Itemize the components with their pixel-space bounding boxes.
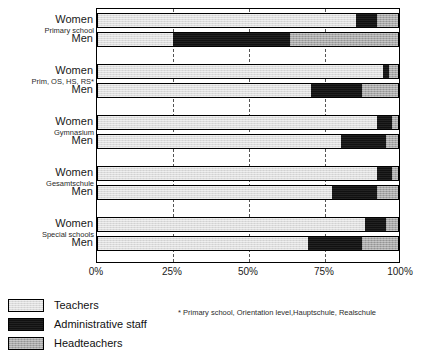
bar-segment-admin <box>311 84 362 97</box>
x-tick-50pct: 50% <box>228 266 268 277</box>
bar-segment-teachers <box>98 186 332 199</box>
bar-segment-head <box>377 186 398 199</box>
y-group-label-special-schools: Special schools <box>2 231 94 239</box>
x-tick-100pct: 100% <box>380 266 420 277</box>
bar-segment-head <box>362 237 398 250</box>
bar-segment-head <box>386 135 398 148</box>
bar-segment-teachers <box>98 167 377 180</box>
bar-primary-school-men <box>97 32 399 47</box>
bar-segment-teachers <box>98 33 173 46</box>
legend-label-head: Headteachers <box>54 337 123 349</box>
y-label-women: Women <box>3 14 93 25</box>
x-tick-25pct: 25% <box>152 266 192 277</box>
bar-segment-head <box>362 84 398 97</box>
bar-gesamtschule-men <box>97 185 399 200</box>
bar-segment-admin <box>377 167 392 180</box>
bar-special-schools-men <box>97 236 399 251</box>
bar-gesamtschule-women <box>97 166 399 181</box>
bar-segment-admin <box>377 116 392 129</box>
bar-segment-admin <box>308 237 362 250</box>
y-label-women: Women <box>3 218 93 229</box>
bar-segment-head <box>392 116 398 129</box>
y-group-label-primary-school: Primary school <box>2 27 94 35</box>
bar-special-schools-women <box>97 217 399 232</box>
y-label-women: Women <box>3 65 93 76</box>
bar-segment-teachers <box>98 14 356 27</box>
bar-primary-school-women <box>97 13 399 28</box>
bar-gymnasium-women <box>97 115 399 130</box>
bar-gymnasium-men <box>97 134 399 149</box>
bar-segment-admin <box>365 218 386 231</box>
chart-legend: TeachersAdministrative staffHeadteachers <box>8 296 168 353</box>
x-tick-0pct: 0% <box>76 266 116 277</box>
chart-plot-area <box>96 8 400 263</box>
bar-segment-head <box>389 65 398 78</box>
y-group-label-gesamtschule: Gesamtschule <box>2 180 94 188</box>
legend-swatch-head <box>8 337 44 350</box>
bar-segment-admin <box>332 186 377 199</box>
legend-swatch-admin <box>8 318 44 331</box>
y-group-label-gymnasium: Gymnasium <box>2 129 94 137</box>
y-group-label-prim-os-hs-rs-: Prim, OS, HS, RS* <box>2 78 94 86</box>
legend-item-head: Headteachers <box>8 334 168 352</box>
bar-segment-admin <box>341 135 386 148</box>
bar-segment-admin <box>356 14 377 27</box>
bar-segment-teachers <box>98 237 308 250</box>
bar-segment-teachers <box>98 116 377 129</box>
bar-segment-admin <box>173 33 290 46</box>
legend-item-admin: Administrative staff <box>8 315 168 333</box>
legend-item-teachers: Teachers <box>8 296 168 314</box>
bar-segment-teachers <box>98 135 341 148</box>
bar-prim-os-hs-rs--men <box>97 83 399 98</box>
y-label-women: Women <box>3 116 93 127</box>
y-label-women: Women <box>3 167 93 178</box>
legend-swatch-teachers <box>8 299 44 312</box>
bar-segment-head <box>386 218 398 231</box>
plot-inner <box>97 9 399 262</box>
bar-prim-os-hs-rs--women <box>97 64 399 79</box>
bar-segment-head <box>290 33 398 46</box>
footnote-text: * Primary school, Orientation level,Haup… <box>178 308 376 318</box>
x-tick-75pct: 75% <box>304 266 344 277</box>
bar-segment-head <box>377 14 398 27</box>
legend-label-admin: Administrative staff <box>54 318 147 330</box>
bar-segment-teachers <box>98 218 365 231</box>
bar-segment-head <box>392 167 398 180</box>
bar-segment-teachers <box>98 84 311 97</box>
bar-segment-teachers <box>98 65 383 78</box>
legend-label-teachers: Teachers <box>54 299 99 311</box>
